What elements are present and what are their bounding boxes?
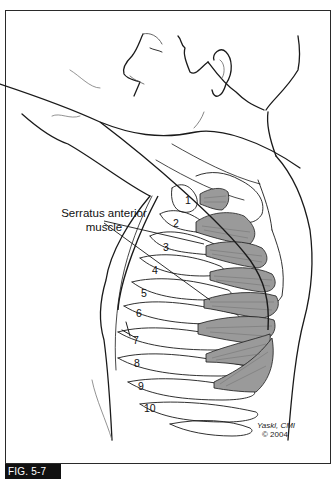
figure-label: FIG. 5-7	[5, 464, 61, 479]
rib-label-8: 8	[134, 358, 140, 369]
ear-outline	[212, 50, 231, 96]
copyright-text: © 2004	[262, 430, 288, 439]
arm-upper-edge	[0, 84, 300, 168]
artist-signature: Yaskl, CMI	[257, 421, 295, 430]
serratus-anterior-callout: Serratus anterior muscle	[42, 206, 166, 234]
anatomy-illustration	[0, 0, 334, 479]
rib-label-6: 6	[136, 308, 142, 319]
rib-label-2: 2	[173, 218, 179, 229]
rib-label-9: 9	[138, 381, 144, 392]
rib-label-7: 7	[133, 335, 139, 346]
callout-line-1: Serratus anterior	[42, 206, 166, 220]
rib-label-4: 4	[152, 265, 158, 276]
serratus-anterior-muscle	[196, 188, 278, 392]
back-contour	[276, 156, 312, 440]
rib-label-5: 5	[141, 288, 147, 299]
rib-label-10: 10	[144, 403, 156, 414]
rib-label-3: 3	[163, 242, 169, 253]
arm-lower-edge	[22, 114, 150, 196]
callout-line-2: muscle	[42, 220, 166, 234]
rib-label-1: 1	[185, 195, 191, 206]
head-outline	[123, 34, 143, 96]
